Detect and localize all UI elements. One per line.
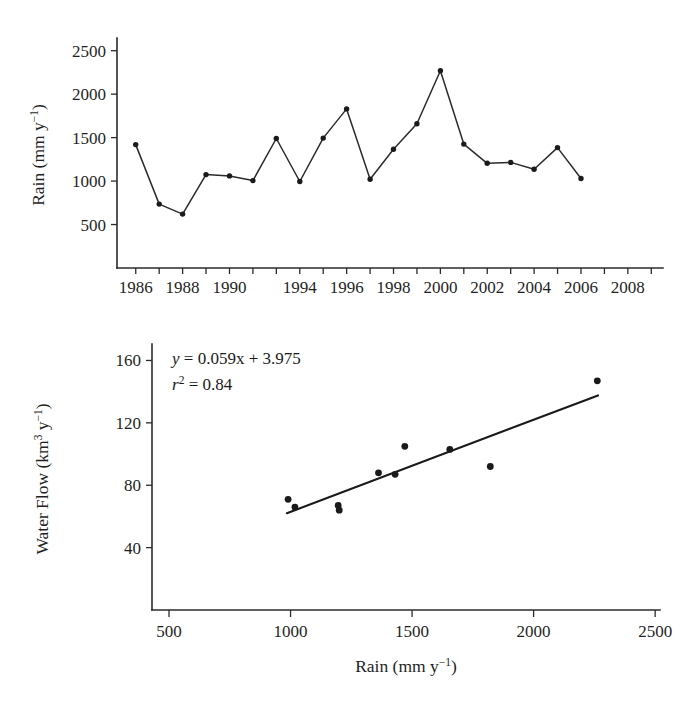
- rain-x-tick-label: 2008: [611, 278, 645, 297]
- rain-x-tick-label: 2002: [470, 278, 504, 297]
- r-squared-label: r2 = 0.84: [172, 374, 233, 394]
- regression-equation-label: y = 0.059x + 3.975: [170, 349, 301, 368]
- scatter-y-tick-label: 120: [116, 414, 142, 433]
- rain-data-point: [438, 68, 443, 73]
- rain-timeseries-panel: 5001000150020002500198619881990199419961…: [0, 0, 687, 310]
- scatter-x-tick-label: 2500: [638, 622, 672, 641]
- rain-x-tick-label: 1988: [166, 278, 200, 297]
- scatter-data-point: [292, 504, 299, 511]
- rain-data-point: [321, 135, 326, 140]
- scatter-y-axis-title: Water Flow (km3 y−1): [32, 403, 52, 554]
- scatter-data-point: [375, 469, 382, 476]
- rain-y-tick-label: 2000: [72, 85, 106, 104]
- rain-data-point: [274, 136, 279, 141]
- rain-data-point: [250, 178, 255, 183]
- rain-data-point: [555, 145, 560, 150]
- scatter-x-axis-title: Rain (mm y−1): [355, 656, 457, 676]
- rain-data-point: [157, 201, 162, 206]
- scatter-y-tick-label: 160: [116, 351, 142, 370]
- scatter-y-tick-label: 40: [124, 539, 141, 558]
- rain-data-point: [297, 179, 302, 184]
- rain-y-tick-label: 2500: [72, 42, 106, 61]
- rain-data-point: [227, 173, 232, 178]
- rain-vs-waterflow-chart: 40801201605001000150020002500y = 0.059x …: [0, 320, 687, 700]
- rain-data-point: [485, 161, 490, 166]
- scatter-data-point: [487, 463, 494, 470]
- scatter-data-point: [285, 496, 292, 503]
- rain-data-point: [531, 167, 536, 172]
- rain-series-line: [136, 71, 581, 214]
- scatter-data-point: [401, 443, 408, 450]
- scatter-y-tick-label: 80: [124, 476, 141, 495]
- rain-vs-waterflow-panel: 40801201605001000150020002500y = 0.059x …: [0, 320, 687, 700]
- rain-data-point: [508, 160, 513, 165]
- rain-y-tick-label: 1000: [72, 172, 106, 191]
- scatter-data-point: [594, 377, 601, 384]
- rain-data-point: [180, 211, 185, 216]
- rain-x-tick-label: 1998: [377, 278, 411, 297]
- rain-x-tick-label: 2000: [423, 278, 457, 297]
- rain-data-point: [367, 177, 372, 182]
- svg-text:Water Flow (km3 y−1): Water Flow (km3 y−1): [32, 403, 52, 554]
- rain-x-tick-label: 1994: [283, 278, 318, 297]
- rain-data-point: [344, 106, 349, 111]
- scatter-data-point: [336, 507, 343, 514]
- rain-x-tick-label: 2004: [517, 278, 552, 297]
- rain-data-point: [133, 142, 138, 147]
- svg-text:Rain (mm y−1): Rain (mm y−1): [28, 104, 48, 206]
- rain-timeseries-chart: 5001000150020002500198619881990199419961…: [0, 0, 687, 310]
- rain-data-point: [203, 172, 208, 177]
- scatter-x-tick-label: 1000: [274, 622, 308, 641]
- rain-data-point: [414, 121, 419, 126]
- rain-y-tick-label: 500: [81, 216, 107, 235]
- rain-data-point: [391, 147, 396, 152]
- scatter-data-point: [446, 446, 453, 453]
- figure-container: 5001000150020002500198619881990199419961…: [0, 0, 687, 725]
- scatter-x-tick-label: 1500: [395, 622, 429, 641]
- rain-x-tick-label: 1986: [119, 278, 153, 297]
- rain-data-point: [578, 176, 583, 181]
- scatter-x-tick-label: 2000: [517, 622, 551, 641]
- rain-x-tick-label: 2006: [564, 278, 598, 297]
- regression-line: [287, 395, 598, 513]
- rain-x-tick-label: 1990: [212, 278, 246, 297]
- scatter-x-tick-label: 500: [156, 622, 182, 641]
- scatter-data-point: [392, 471, 399, 478]
- rain-y-axis-title: Rain (mm y−1): [28, 104, 48, 206]
- rain-data-point: [461, 141, 466, 146]
- rain-x-tick-label: 1996: [330, 278, 364, 297]
- rain-y-tick-label: 1500: [72, 129, 106, 148]
